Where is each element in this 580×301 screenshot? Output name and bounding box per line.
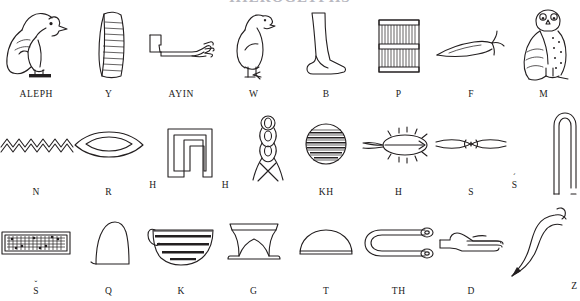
quail-chick-icon [218,6,290,86]
glyph-label: AYIN [169,86,194,104]
glyph-label: F [468,86,474,104]
glyph-label: KH [319,184,334,202]
glyph-label: ´S [512,181,518,191]
glyph-cell-w: W [218,6,290,104]
glyph-cell-ayin: AYIN [145,6,217,104]
glyph-row: ALEPH Y [0,6,580,104]
glyph-cell-s-caron: ˇS [0,202,72,301]
glyph-label: H. [222,181,229,191]
glyph-label: TH [392,283,406,301]
glyph-cell-n: N [0,104,72,202]
reed-mat-stool-icon [363,6,435,86]
glyph-label: M [539,86,548,104]
basket-with-handle-icon [145,202,217,283]
glyph-label: R [105,184,112,202]
glyph-cell-t: T [290,202,362,301]
glyph-cell-d: D [435,202,507,301]
glyph-cell-th: TH [363,202,435,301]
glyph-label: H [149,181,156,191]
glyph-cell-p: P [363,6,435,104]
reed-leaf-icon [73,6,145,86]
horned-viper-icon [435,6,507,86]
animal-belly-icon [363,104,435,184]
glyph-cell-h: H [145,104,217,202]
glyph-cell-f: F [435,6,507,104]
folded-cloth-icon [435,104,507,184]
glyph-cell-b: B [290,6,362,104]
glyph-cell-g: G [218,202,290,301]
glyph-cell-h-line: H_ [363,104,435,202]
water-ripple-icon [0,104,72,184]
letter-s: ˇS [33,287,39,297]
owl-icon [508,6,580,86]
tethering-rope-icon [363,202,435,283]
vulture-icon [0,6,72,86]
glyph-cell-y: Y [73,6,145,104]
glyph-label: P [396,86,402,104]
door-bolt-icon [507,104,580,202]
glyph-cell-m: M [508,6,580,104]
glyph-label: N [33,184,40,202]
glyph-label: K [178,283,185,301]
glyph-label: G [250,283,257,301]
jar-stand-icon [218,202,290,283]
glyph-label: T [323,283,329,301]
glyph-label: B [323,86,330,104]
bread-loaf-icon [290,202,362,283]
glyph-label: D [468,283,475,301]
glyph-label: H_ [395,184,402,202]
dot-below-diacritic: . [224,182,227,190]
mouth-icon [73,104,145,184]
glyph-label: S [468,184,474,202]
hieroglyph-chart: HIEROGLYPHS [0,0,580,301]
hand-icon [435,202,507,283]
glyph-cell-aleph: ALEPH [0,6,72,104]
line-below-diacritic: _ [396,188,401,196]
foot-icon [290,6,362,86]
pool-of-water-icon [0,202,72,283]
glyph-label: Z [571,282,577,292]
glyph-label: Q [105,283,112,301]
glyph-cell-q: Q [73,202,145,301]
glyph-cell-r: R [73,104,145,202]
glyph-row: N R H [0,104,580,202]
cobra-icon [506,202,580,301]
placenta-sieve-icon [290,104,362,184]
glyph-cell-k: K [145,202,217,301]
glyph-label: ˇS [33,283,39,301]
glyph-cell-h-dot: H. [218,104,290,202]
glyph-label: Y [105,86,112,104]
glyph-cell-s: S [435,104,507,202]
glyph-label: W [249,86,259,104]
glyph-cell-s-acute: ´S [508,104,580,202]
glyph-cell-z: Z [508,202,580,301]
glyph-cell-kh: KH [290,104,362,202]
caron-above-diacritic: ˇ [35,281,38,289]
glyph-row: ˇS Q [0,202,580,301]
glyph-label: ALEPH [19,86,53,104]
acute-above-diacritic: ´ [513,174,516,182]
letter-s: ´S [512,181,518,191]
hill-slope-icon [73,202,145,283]
forearm-icon [145,6,217,86]
